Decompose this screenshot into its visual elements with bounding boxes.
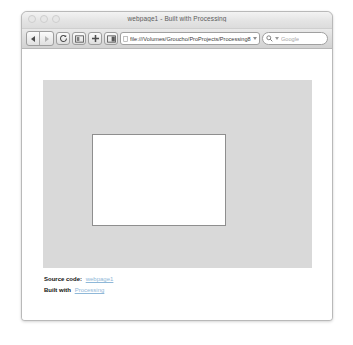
source-code-link[interactable]: webpage1: [86, 276, 114, 282]
chevron-left-icon: [31, 36, 35, 42]
built-with-link[interactable]: Processing: [75, 287, 105, 293]
processing-canvas[interactable]: [92, 134, 226, 226]
source-code-label: Source code:: [44, 276, 82, 282]
page-footer: Source code: webpage1 Built with Process…: [44, 274, 113, 296]
window-titlebar[interactable]: webpage1 - Built with Processing: [22, 12, 332, 29]
built-with-label: Built with: [44, 287, 71, 293]
chevron-down-icon[interactable]: [253, 37, 257, 40]
search-icon: [266, 35, 273, 42]
forward-button[interactable]: [40, 32, 53, 45]
chevron-right-icon: [45, 36, 49, 42]
search-placeholder: Google: [281, 36, 299, 42]
add-bookmark-button[interactable]: [88, 32, 102, 45]
search-engine-chevron-icon[interactable]: [275, 37, 279, 40]
file-icon: [123, 36, 128, 42]
back-button[interactable]: [27, 32, 40, 45]
bookmarks-icon: [75, 35, 84, 43]
reload-icon: [59, 34, 68, 43]
address-bar-text: file:///Volumes/Groucho/ProProjects/Proc…: [130, 36, 251, 42]
browser-toolbar: file:///Volumes/Groucho/ProProjects/Proc…: [22, 29, 332, 49]
built-with-row: Built with Processing: [44, 285, 113, 296]
navigation-buttons: [26, 31, 54, 46]
source-code-row: Source code: webpage1: [44, 274, 113, 285]
search-field[interactable]: Google: [262, 32, 328, 45]
plus-icon: [91, 34, 100, 43]
address-bar[interactable]: file:///Volumes/Groucho/ProProjects/Proc…: [120, 32, 260, 45]
bookmarks-button[interactable]: [72, 32, 86, 45]
window-title: webpage1 - Built with Processing: [22, 15, 332, 22]
browser-window: webpage1 - Built with Processing: [21, 11, 333, 321]
screenshot-root: webpage1 - Built with Processing: [0, 0, 353, 345]
page-icon: [107, 35, 116, 43]
reload-button[interactable]: [56, 32, 70, 45]
page-actions-button[interactable]: [104, 32, 118, 45]
page-content-block: [43, 80, 312, 268]
page-viewport: Source code: webpage1 Built with Process…: [22, 49, 332, 320]
